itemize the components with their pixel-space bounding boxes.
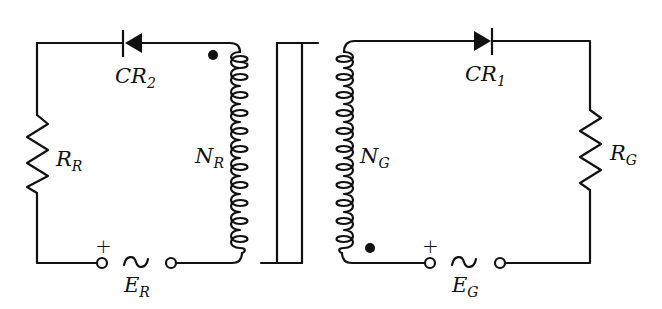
resistor-rg bbox=[580, 110, 601, 190]
terminal-er-plus bbox=[97, 258, 107, 268]
terminal-er-minus bbox=[166, 258, 176, 268]
polarity-plus-eg: + bbox=[422, 236, 439, 256]
diode-cr1 bbox=[474, 28, 492, 55]
transformer-core bbox=[261, 43, 318, 263]
terminal-eg-minus bbox=[495, 258, 505, 268]
terminal-eg-plus bbox=[425, 258, 435, 268]
ac-source-icon-eg bbox=[452, 257, 476, 267]
label-ng: NG bbox=[360, 146, 390, 170]
ac-source-icon-er bbox=[124, 257, 148, 267]
label-nr: NR bbox=[195, 146, 224, 170]
polarity-dot-nr bbox=[208, 50, 218, 60]
polarity-plus-er: + bbox=[95, 236, 112, 256]
winding-ng bbox=[337, 52, 354, 253]
label-er: ER bbox=[124, 275, 150, 299]
winding-nr bbox=[231, 52, 248, 253]
label-rr: RR bbox=[56, 149, 82, 173]
polarity-dot-ng bbox=[365, 243, 375, 253]
label-eg: EG bbox=[452, 275, 479, 299]
diode-cr2 bbox=[123, 30, 142, 57]
label-cr2: CR2 bbox=[115, 66, 156, 90]
label-rg: RG bbox=[610, 143, 637, 167]
resistor-rr bbox=[27, 115, 48, 193]
circuit-diagram bbox=[0, 0, 662, 309]
label-cr1: CR1 bbox=[465, 64, 506, 88]
